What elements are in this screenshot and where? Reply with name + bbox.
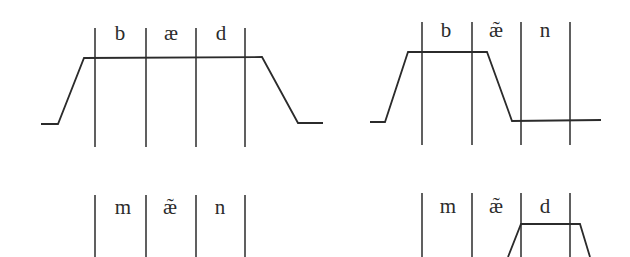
segment-label: æ bbox=[164, 21, 178, 45]
segment-label: b bbox=[441, 18, 452, 42]
velum-contour bbox=[41, 57, 323, 124]
segment-label: m bbox=[440, 194, 456, 218]
segment-label: æ̃ bbox=[163, 195, 177, 219]
velum-contour-diagram: b æ d b æ̃ n m æ̃ n m æ̃ d bbox=[0, 0, 630, 257]
segment-label: d bbox=[216, 21, 227, 45]
segment-label: n bbox=[540, 18, 551, 42]
panel-bottom-left: m æ̃ n bbox=[95, 195, 245, 257]
panel-top-left: b æ d bbox=[41, 21, 323, 147]
segment-label: æ̃ bbox=[489, 194, 503, 218]
panel-top-right: b æ̃ n bbox=[370, 18, 601, 145]
segment-label: b bbox=[115, 21, 126, 45]
segment-label: d bbox=[540, 194, 551, 218]
segment-label: æ̃ bbox=[489, 18, 503, 42]
panel-bottom-right: m æ̃ d bbox=[422, 193, 590, 257]
segment-label: m bbox=[115, 195, 131, 219]
segment-label: n bbox=[215, 195, 226, 219]
velum-contour bbox=[370, 52, 601, 122]
